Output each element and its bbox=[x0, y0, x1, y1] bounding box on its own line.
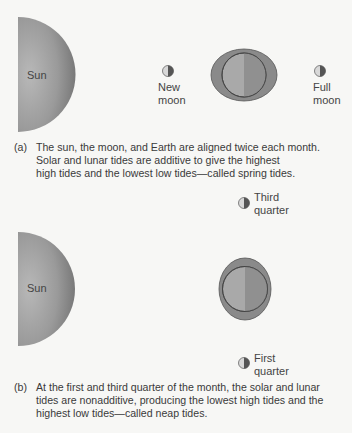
third-quarter-label-line2: quarter bbox=[254, 204, 289, 217]
first-quarter-label: First quarter bbox=[254, 352, 289, 378]
first-quarter-moon-icon bbox=[239, 358, 250, 369]
new-moon-icon bbox=[163, 66, 174, 77]
earth-neap-tide bbox=[219, 258, 271, 320]
earth-spring-tide bbox=[211, 49, 277, 101]
new-moon-label-line2: moon bbox=[158, 94, 186, 107]
third-quarter-label: Third quarter bbox=[254, 191, 289, 217]
first-quarter-label-line2: quarter bbox=[254, 365, 289, 378]
third-quarter-label-line1: Third bbox=[254, 191, 289, 204]
new-moon-label-line1: New bbox=[158, 81, 186, 94]
caption-b-tag: (b) bbox=[14, 381, 27, 394]
caption-a-line3: high tides and the lowest low tides—call… bbox=[36, 167, 352, 180]
caption-b-line1: At the first and third quarter of the mo… bbox=[36, 381, 352, 394]
caption-a-line1: The sun, the moon, and Earth are aligned… bbox=[36, 141, 352, 154]
sun-label-b: Sun bbox=[27, 282, 47, 295]
caption-a-line2: Solar and lunar tides are additive to gi… bbox=[36, 154, 352, 167]
first-quarter-label-line1: First bbox=[254, 352, 289, 365]
full-moon-label: Full moon bbox=[313, 81, 341, 107]
tide-diagram bbox=[0, 0, 352, 433]
caption-b-text: At the first and third quarter of the mo… bbox=[36, 381, 352, 420]
new-moon-label: New moon bbox=[158, 81, 186, 107]
sun-label-a: Sun bbox=[27, 69, 47, 82]
caption-b-line2: tides are nonadditive, producing the low… bbox=[36, 394, 352, 407]
full-moon-label-line2: moon bbox=[313, 94, 341, 107]
caption-a-text: The sun, the moon, and Earth are aligned… bbox=[36, 141, 352, 180]
caption-a-tag: (a) bbox=[14, 141, 27, 154]
third-quarter-moon-icon bbox=[239, 198, 250, 209]
full-moon-label-line1: Full bbox=[313, 81, 341, 94]
caption-b-line3: highest low tides—called neap tides. bbox=[36, 407, 352, 420]
full-moon-icon bbox=[315, 66, 326, 77]
